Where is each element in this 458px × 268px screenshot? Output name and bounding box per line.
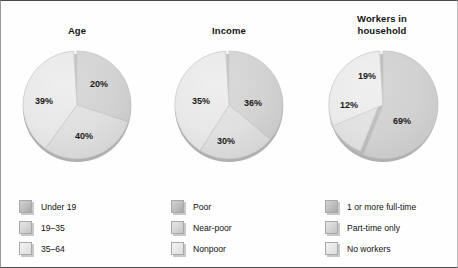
- legend-swatch-icon: [19, 242, 32, 255]
- legend-label: 19–35: [41, 223, 65, 233]
- chart-panel-row: Age: [1, 1, 458, 267]
- chart-panel-age: Age: [1, 1, 153, 267]
- pie-svg-age: 20% 40% 39%: [21, 49, 133, 161]
- legend-item: Near-poor: [171, 217, 232, 238]
- pie-slice-label-age-0: 20%: [90, 79, 108, 89]
- legend-swatch-icon: [171, 242, 184, 255]
- pie-chart-income: 36% 30% 35%: [173, 49, 285, 161]
- legend-label: No workers: [347, 244, 390, 254]
- pie-svg-workers: 69% 12% 19%: [327, 49, 439, 161]
- legend-item: 35–64: [19, 238, 76, 259]
- legend-label: Under 19: [41, 202, 76, 212]
- legend-item: No workers: [325, 238, 416, 259]
- pie-slice-label-age-1: 40%: [75, 131, 93, 141]
- legend-item: Under 19: [19, 196, 76, 217]
- legend-swatch-icon: [19, 200, 32, 213]
- legend-label: 35–64: [41, 244, 65, 254]
- chart-title-age: Age: [1, 25, 153, 37]
- pie-slice-label-income-0: 36%: [244, 98, 262, 108]
- chart-title-workers: Workers in household: [305, 13, 458, 36]
- pie-slice-label-income-1: 30%: [217, 136, 235, 146]
- legend-income: Poor Near-poor Nonpoor: [171, 196, 232, 259]
- pie-slice-label-workers-0: 69%: [393, 116, 411, 126]
- legend-swatch-icon: [171, 221, 184, 234]
- legend-item: 1 or more full-time: [325, 196, 416, 217]
- chart-title-income: Income: [153, 25, 305, 37]
- pie-slice-label-income-2: 35%: [192, 96, 210, 106]
- chart-panel-workers: Workers in household 69% 12% 19%: [305, 1, 458, 267]
- legend-workers: 1 or more full-time Part-time only No wo…: [325, 196, 416, 259]
- pie-slice-label-workers-1: 12%: [340, 100, 358, 110]
- legend-label: 1 or more full-time: [347, 202, 416, 212]
- legend-age: Under 19 19–35 35–64: [19, 196, 76, 259]
- legend-label: Poor: [193, 202, 211, 212]
- pie-slice-label-age-2: 39%: [35, 96, 53, 106]
- legend-label: Nonpoor: [193, 244, 226, 254]
- legend-item: 19–35: [19, 217, 76, 238]
- pie-slice-label-workers-2: 19%: [358, 71, 376, 81]
- pie-chart-workers: 69% 12% 19%: [327, 49, 439, 161]
- legend-swatch-icon: [325, 242, 338, 255]
- legend-swatch-icon: [325, 200, 338, 213]
- legend-swatch-icon: [19, 221, 32, 234]
- legend-item: Part-time only: [325, 217, 416, 238]
- legend-label: Near-poor: [193, 223, 232, 233]
- legend-label: Part-time only: [347, 223, 400, 233]
- pie-chart-age: 20% 40% 39%: [21, 49, 133, 161]
- pie-svg-income: 36% 30% 35%: [173, 49, 285, 161]
- legend-swatch-icon: [171, 200, 184, 213]
- legend-item: Poor: [171, 196, 232, 217]
- legend-swatch-icon: [325, 221, 338, 234]
- chart-panel-income: Income 36% 30% 35%: [153, 1, 305, 267]
- legend-item: Nonpoor: [171, 238, 232, 259]
- pie-chart-figure: Age: [0, 0, 458, 268]
